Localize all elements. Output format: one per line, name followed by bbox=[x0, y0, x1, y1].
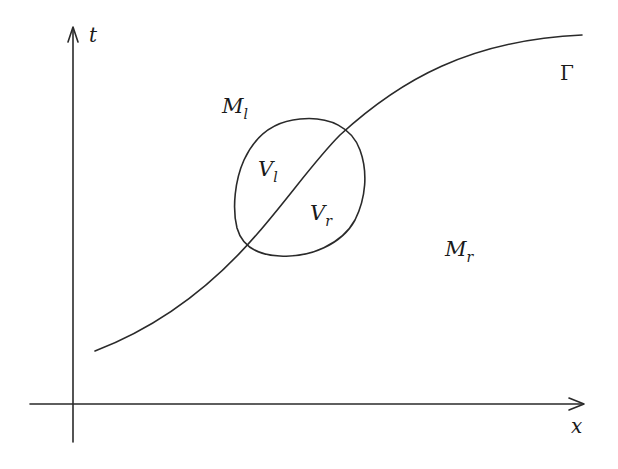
x-axis-label: x bbox=[571, 414, 582, 438]
label-m-l: Ml bbox=[221, 94, 248, 122]
label-m-r-sub: r bbox=[467, 249, 475, 265]
gamma-curve-line bbox=[95, 35, 582, 351]
gamma-label: Γ bbox=[560, 61, 574, 85]
svg-text:Ml: Ml bbox=[221, 94, 248, 122]
label-v-l-sub: l bbox=[273, 169, 277, 185]
label-m-r-base: M bbox=[444, 237, 467, 261]
subdomain-loop-line bbox=[235, 119, 365, 257]
svg-text:Mr: Mr bbox=[444, 237, 475, 265]
label-v-r: Vr bbox=[310, 201, 333, 229]
label-m-l-sub: l bbox=[244, 106, 248, 122]
label-m-r: Mr bbox=[444, 237, 475, 265]
label-m-l-base: M bbox=[221, 94, 244, 118]
label-v-r-sub: r bbox=[325, 213, 333, 229]
x-axis: x bbox=[30, 398, 584, 438]
t-axis: t bbox=[68, 23, 98, 442]
t-axis-label: t bbox=[89, 23, 98, 47]
gamma-curve: Γ bbox=[95, 35, 582, 351]
svg-text:Vr: Vr bbox=[310, 201, 333, 229]
svg-text:Vl: Vl bbox=[258, 157, 278, 185]
diagram-canvas: t x Γ Ml Vl Vr Mr bbox=[0, 0, 618, 469]
label-v-l: Vl bbox=[258, 157, 278, 185]
subdomain-loop bbox=[235, 119, 365, 257]
